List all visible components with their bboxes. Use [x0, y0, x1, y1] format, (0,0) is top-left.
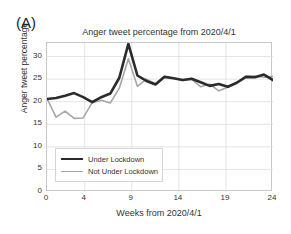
x-axis-label: Weeks from 2020/4/1: [46, 208, 272, 218]
legend-item-not-under-lockdown: Not Under Lockdown: [61, 165, 157, 177]
chart-title: Anger tweet percentage from 2020/4/1: [46, 27, 272, 37]
legend-item-under-lockdown: Under Lockdown: [61, 153, 157, 165]
x-tick-label: 14: [166, 193, 190, 202]
y-tick-label: 10: [24, 141, 42, 150]
series-lines: [47, 44, 273, 119]
series-line: [47, 59, 273, 119]
y-tick-label: 25: [24, 73, 42, 82]
x-tick-label: 19: [213, 193, 237, 202]
y-tick-label: 20: [24, 96, 42, 105]
y-tick-label: 15: [24, 118, 42, 127]
x-tick-label: 4: [72, 193, 96, 202]
y-axis-label: Anger tweet percentage: [19, 1, 29, 136]
y-tick-label: 5: [24, 163, 42, 172]
x-tick-label: 9: [119, 193, 143, 202]
x-tick-label: 24: [260, 193, 284, 202]
legend-line-swatch-dark: [61, 158, 83, 160]
legend-label-under-lockdown: Under Lockdown: [88, 155, 144, 164]
y-tick-label: 30: [24, 51, 42, 60]
x-tick-label: 0: [34, 193, 58, 202]
series-line: [47, 44, 273, 102]
legend-line-swatch-gray: [61, 171, 83, 172]
chart-legend: Under Lockdown Not Under Lockdown: [55, 148, 163, 182]
legend-label-not-under-lockdown: Not Under Lockdown: [88, 167, 158, 176]
